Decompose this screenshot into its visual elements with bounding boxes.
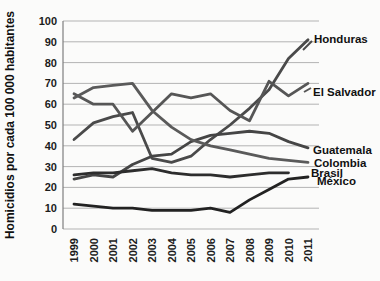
- y-axis-tick-label: 0: [51, 223, 57, 235]
- series-line-el-salvador: [74, 81, 308, 131]
- x-axis-tick-label: 2009: [263, 238, 275, 262]
- x-axis-tick-label: 2004: [166, 237, 178, 262]
- series-label-honduras: Honduras: [314, 33, 368, 45]
- y-axis-tick-label: 60: [45, 98, 57, 110]
- x-axis-tick-label: 2005: [185, 238, 197, 262]
- axis-layer: 0102030405060708090100199920002001200220…: [39, 15, 314, 262]
- y-axis-tick-label: 80: [45, 57, 57, 69]
- series-label-mexico: México: [317, 175, 356, 187]
- x-axis-tick-label: 2010: [283, 238, 295, 262]
- y-axis-tick-label: 50: [45, 119, 57, 131]
- x-axis-tick-label: 2008: [244, 238, 256, 262]
- series-label-guatemala: Guatemala: [313, 144, 372, 156]
- series-label-layer: HondurasEl SalvadorGuatemalaColombiaBras…: [303, 33, 376, 187]
- series-line-colombia: [74, 83, 308, 162]
- x-axis-tick-label: 2011: [302, 238, 314, 262]
- y-axis-tick-label: 30: [45, 161, 57, 173]
- series-layer: [74, 40, 308, 213]
- homicide-rates-line-chart: 0102030405060708090100199920002001200220…: [0, 0, 380, 281]
- x-axis-tick-label: 1999: [68, 238, 80, 262]
- y-axis-tick-label: 40: [45, 140, 57, 152]
- gridline-layer: [63, 21, 319, 229]
- series-label-el-salvador: El Salvador: [313, 86, 376, 98]
- y-axis-title: Homicidios por cada 100 000 habitantes: [3, 11, 17, 239]
- x-axis-tick-label: 2000: [88, 238, 100, 262]
- x-axis-tick-label: 2007: [224, 238, 236, 262]
- series-line-mexico: [74, 177, 308, 212]
- x-axis-tick-label: 2001: [107, 238, 119, 262]
- label-leader-line-el-salvador: [304, 88, 311, 92]
- homicide-rates-chart: 0102030405060708090100199920002001200220…: [0, 0, 380, 281]
- y-axis-tick-label: 100: [39, 15, 57, 27]
- x-axis-tick-label: 2003: [146, 238, 158, 262]
- y-axis-tick-label: 20: [45, 181, 57, 193]
- series-line-honduras: [74, 40, 308, 163]
- y-axis-tick-label: 70: [45, 77, 57, 89]
- x-axis-tick-label: 2006: [205, 238, 217, 262]
- y-axis-tick-label: 90: [45, 36, 57, 48]
- y-axis-tick-label: 10: [45, 202, 57, 214]
- x-axis-tick-label: 2002: [127, 238, 139, 262]
